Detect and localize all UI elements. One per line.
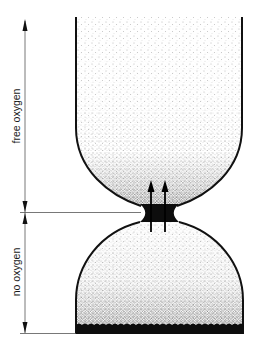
label-free-oxygen: free oxygen	[10, 88, 22, 143]
upper-vessel-fill	[70, 15, 250, 210]
arrowhead-bottom	[23, 322, 28, 333]
arrowhead-top	[23, 19, 28, 31]
arrowhead-upper-bottom	[23, 201, 28, 212]
neck-constriction	[140, 204, 179, 222]
sediment-layer	[76, 324, 244, 335]
oxygen-zonation-diagram: free oxygen no oxygen	[0, 0, 255, 348]
lower-vessel-fill	[70, 220, 250, 325]
arrowhead-lower-top	[23, 213, 28, 224]
label-no-oxygen: no oxygen	[10, 248, 22, 297]
